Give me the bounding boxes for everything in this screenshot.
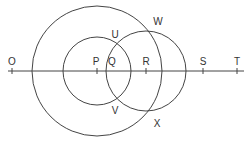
point-label-P: P: [93, 57, 100, 67]
geometry-diagram: [0, 0, 247, 144]
point-label-O: O: [8, 57, 16, 67]
point-label-Q: Q: [108, 57, 116, 67]
point-label-T: T: [234, 57, 240, 67]
intersection-label-V: V: [112, 106, 119, 116]
intersection-label-U: U: [111, 30, 118, 40]
point-label-S: S: [200, 57, 207, 67]
intersection-label-X: X: [154, 119, 161, 129]
intersection-label-W: W: [153, 17, 162, 27]
point-label-R: R: [142, 57, 149, 67]
